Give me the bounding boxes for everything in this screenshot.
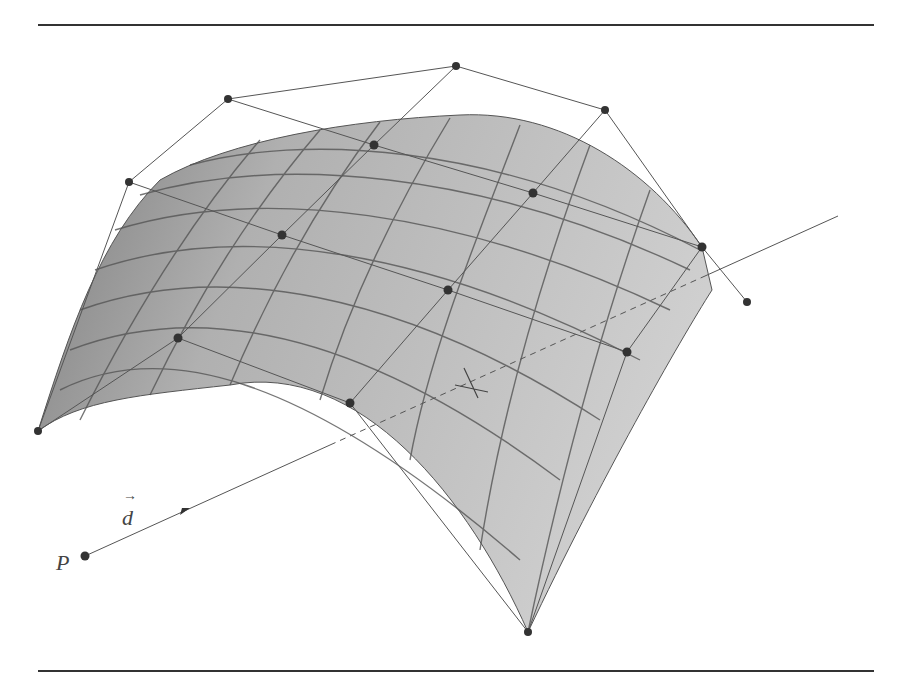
surface: [38, 115, 712, 632]
bezier-surface-diagram: [0, 0, 904, 699]
figure: P d →: [0, 0, 904, 699]
vector-arrow-icon: →: [123, 488, 137, 504]
direction-label: d: [122, 505, 133, 531]
point-label: P: [56, 550, 69, 576]
